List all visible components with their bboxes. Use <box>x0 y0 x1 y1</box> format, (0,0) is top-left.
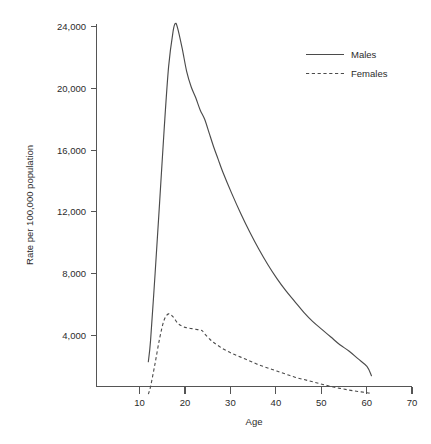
x-tick-label-20: 20 <box>180 397 191 408</box>
y-tick-label-16000: 16,000 <box>57 145 86 156</box>
series-line-males <box>148 23 371 375</box>
y-tick-label-20000: 20,000 <box>57 83 86 94</box>
line-chart-canvas: 24,000 20,000 16,000 12,000 8,000 4,000 … <box>0 0 431 444</box>
x-tick-label-50: 50 <box>316 397 327 408</box>
x-axis-ticks <box>140 387 413 395</box>
x-axis-title: Age <box>246 416 263 427</box>
y-tick-label-4000: 4,000 <box>62 330 86 341</box>
y-axis-title: Rate per 100,000 population <box>24 145 35 265</box>
legend-label-females: Females <box>351 68 388 79</box>
y-tick-label-12000: 12,000 <box>57 206 86 217</box>
x-tick-label-30: 30 <box>225 397 236 408</box>
chart-legend: Males Females <box>306 49 388 79</box>
x-tick-label-60: 60 <box>362 397 373 408</box>
x-axis-tick-labels: 10 20 30 40 50 60 70 <box>134 397 417 408</box>
legend-label-males: Males <box>351 49 377 60</box>
y-axis-tick-labels: 24,000 20,000 16,000 12,000 8,000 4,000 <box>57 21 86 341</box>
y-tick-label-8000: 8,000 <box>62 268 86 279</box>
chart-figure: 24,000 20,000 16,000 12,000 8,000 4,000 … <box>0 0 431 444</box>
x-tick-label-10: 10 <box>134 397 145 408</box>
x-tick-label-70: 70 <box>407 397 418 408</box>
y-tick-label-24000: 24,000 <box>57 21 86 32</box>
x-tick-label-40: 40 <box>271 397 282 408</box>
series-line-females <box>148 314 371 394</box>
y-axis-ticks <box>91 27 97 336</box>
